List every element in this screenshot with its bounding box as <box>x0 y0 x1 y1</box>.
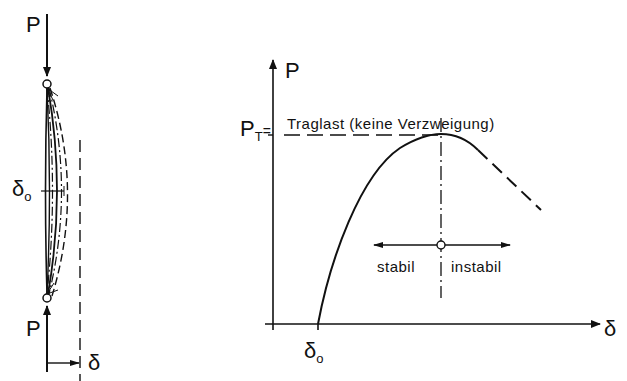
initial-imperfection-label: δo <box>12 178 31 200</box>
column-figure <box>41 14 80 381</box>
unstable-label: instabil <box>451 259 502 274</box>
stability-boundary-point <box>437 241 445 249</box>
unstable-curve <box>478 150 541 210</box>
delta-symbol: δ <box>12 176 24 201</box>
subscript-o: o <box>24 189 31 204</box>
p-symbol: P <box>240 116 255 141</box>
delta-symbol: δ <box>304 338 316 363</box>
stable-curve <box>318 134 478 324</box>
y-axis-label: P <box>285 60 300 82</box>
bottom-load-label: P <box>26 318 41 340</box>
load-deflection-chart <box>265 60 600 330</box>
subscript-o: o <box>316 351 323 366</box>
ultimate-load-text: Traglast (keine Verzweigung) <box>287 116 495 131</box>
x-axis-label: δ <box>604 318 616 340</box>
top-load-label: P <box>26 14 41 36</box>
x-origin-label: δo <box>304 340 323 362</box>
deflection-label: δ <box>88 352 100 374</box>
bottom-pin <box>43 294 51 302</box>
subscript-t: T <box>255 129 263 144</box>
top-pin <box>43 80 51 88</box>
diagram-canvas <box>0 0 627 381</box>
stable-label: stabil <box>377 259 415 274</box>
equals-sign: = <box>263 123 271 139</box>
pt-label: PT= <box>240 118 271 140</box>
